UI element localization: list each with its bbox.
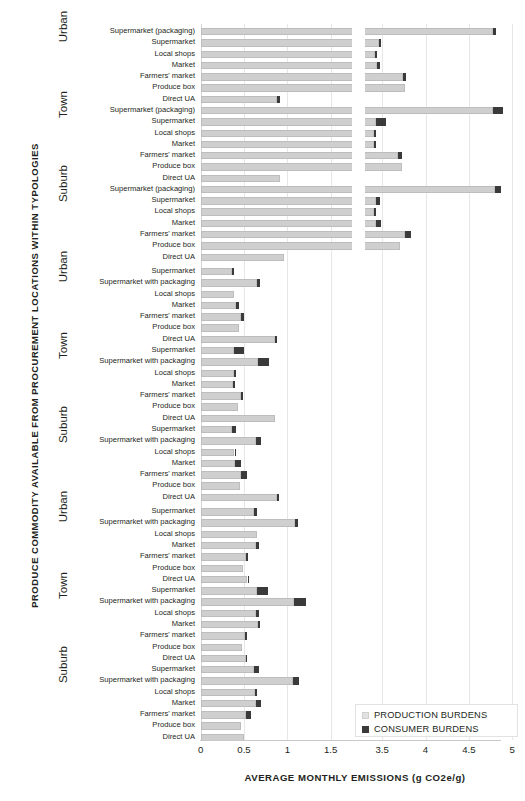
- row-label: Market: [172, 539, 195, 550]
- bar-row: Supermarket: [0, 664, 525, 675]
- bar-row: Supermarket with packaging: [0, 356, 525, 367]
- production-bar: [201, 426, 232, 433]
- bar-row: Market: [0, 458, 525, 469]
- production-bar: [201, 666, 254, 673]
- row-label: Supermarket: [152, 505, 195, 516]
- bar-row: Farmers' market: [0, 150, 525, 161]
- production-bar: [201, 381, 233, 388]
- production-bar: [201, 313, 242, 320]
- row-label: Produce box: [152, 719, 195, 730]
- bar-row: Farmers' market: [0, 630, 525, 641]
- bar-row: Market: [0, 540, 525, 551]
- row-label: Supermarket: [152, 423, 195, 434]
- bar-row: Farmers' market: [0, 229, 525, 240]
- bar-row: Local shops: [0, 128, 525, 139]
- bar-row: Direct UA: [0, 653, 525, 664]
- row-label: Produce box: [152, 160, 195, 171]
- consumer-bar: [232, 426, 236, 433]
- production-bar: [201, 415, 276, 422]
- bar-row: Produce box: [0, 401, 525, 412]
- row-label: Direct UA: [163, 491, 196, 502]
- bar-row: Supermarket: [0, 195, 525, 206]
- consumer-bar: [403, 73, 406, 80]
- consumer-bar: [376, 197, 380, 204]
- row-label: Supermarket: [152, 344, 195, 355]
- bar-row: Supermarket (packaging): [0, 184, 525, 195]
- bar-row: Supermarket: [0, 585, 525, 596]
- row-label: Direct UA: [163, 172, 196, 183]
- row-label: Supermarket with packaging: [99, 516, 195, 527]
- row-label: Produce box: [152, 641, 195, 652]
- axis-break-gap: [352, 24, 365, 740]
- consumer-bar: [236, 302, 239, 309]
- row-label: Supermarket: [152, 265, 195, 276]
- production-bar: [201, 130, 375, 137]
- row-label: Local shops: [154, 205, 195, 216]
- row-label: Direct UA: [163, 251, 196, 262]
- bar-row: Local shops: [0, 687, 525, 698]
- production-bar: [201, 553, 246, 560]
- row-label: Market: [172, 618, 195, 629]
- bar-row: Supermarket (packaging): [0, 26, 525, 37]
- row-label: Market: [172, 299, 195, 310]
- row-label: Local shops: [154, 686, 195, 697]
- row-label: Farmers' market: [140, 228, 195, 239]
- row-label: Farmers' market: [140, 468, 195, 479]
- row-label: Produce box: [152, 562, 195, 573]
- consumer-bar: [246, 655, 247, 662]
- row-label: Direct UA: [163, 93, 196, 104]
- consumer-bar: [235, 460, 240, 467]
- bar-row: Produce box: [0, 161, 525, 172]
- production-bar: [201, 598, 295, 605]
- row-label: Direct UA: [163, 412, 196, 423]
- consumer-bar: [374, 141, 376, 148]
- bar-row: Farmers' market: [0, 551, 525, 562]
- production-bar: [201, 677, 294, 684]
- production-bar: [201, 587, 257, 594]
- production-bar: [201, 347, 234, 354]
- row-label: Farmers' market: [140, 550, 195, 561]
- consumer-bar: [405, 231, 411, 238]
- row-label: Local shops: [154, 48, 195, 59]
- row-label: Local shops: [154, 127, 195, 138]
- row-label: Supermarket with packaging: [99, 595, 195, 606]
- consumer-bar: [234, 347, 244, 354]
- consumer-bar: [246, 711, 251, 718]
- row-label: Supermarket (packaging): [110, 25, 195, 36]
- bar-row: Direct UA: [0, 574, 525, 585]
- row-label: Supermarket (packaging): [110, 183, 195, 194]
- plot-area: Supermarket (packaging)SupermarketLocal …: [0, 24, 525, 740]
- bar-row: Supermarket: [0, 424, 525, 435]
- production-bar: [201, 163, 402, 170]
- bar-row: Produce box: [0, 240, 525, 251]
- bar-row: Supermarket with packaging: [0, 596, 525, 607]
- bar-row: Direct UA: [0, 173, 525, 184]
- emissions-bar-chart: PRODUCE COMMODITY AVAILABLE FROM PROCURE…: [0, 0, 525, 801]
- legend-item-production: PRODUCTION BURDENS: [362, 708, 517, 722]
- chart-legend: PRODUCTION BURDENS CONSUMER BURDENS: [355, 704, 518, 737]
- production-bar: [201, 621, 258, 628]
- bar-row: Supermarket: [0, 37, 525, 48]
- consumer-bar: [379, 39, 382, 46]
- legend-label-consumer: CONSUMER BURDENS: [374, 724, 479, 734]
- bar-row: Market: [0, 139, 525, 150]
- row-label: Farmers' market: [140, 389, 195, 400]
- consumer-swatch-icon: [362, 726, 369, 733]
- production-bar: [201, 208, 375, 215]
- production-bar: [201, 197, 376, 204]
- production-bar: [201, 302, 237, 309]
- production-bar: [201, 231, 405, 238]
- x-tick-label: 0: [198, 744, 203, 755]
- consumer-bar: [256, 437, 261, 444]
- production-bar: [201, 358, 258, 365]
- row-label: Direct UA: [163, 333, 196, 344]
- production-bar: [201, 531, 257, 538]
- production-bar: [201, 508, 255, 515]
- consumer-bar: [295, 519, 298, 526]
- x-tick-label: 4: [423, 744, 428, 755]
- consumer-bar: [248, 576, 250, 583]
- row-label: Supermarket: [152, 194, 195, 205]
- production-bar: [201, 141, 375, 148]
- row-label: Produce box: [152, 321, 195, 332]
- production-bar: [201, 51, 376, 58]
